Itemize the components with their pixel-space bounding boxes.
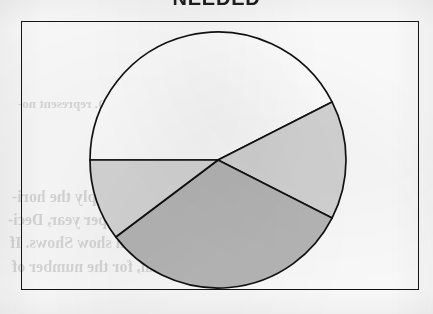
scanned-page: a, B. 5. D. represent no-lies sep. 6, Su… [0, 0, 433, 314]
figure-title: NEEDED [0, 0, 433, 10]
chart-frame-border [21, 21, 419, 290]
